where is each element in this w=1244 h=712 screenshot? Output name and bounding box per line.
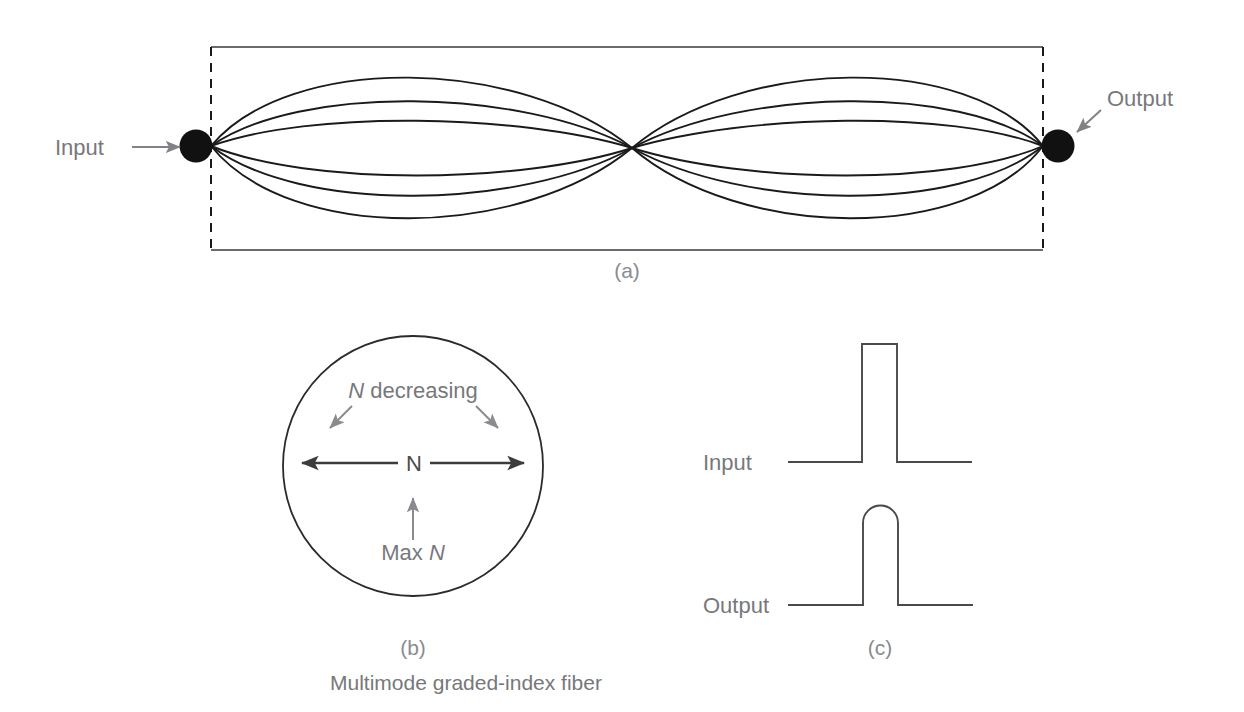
- output-arrow-icon: [1077, 110, 1101, 132]
- panel-c-output-label: Output: [703, 593, 769, 618]
- panel-b-group: N decreasing N Max N (b): [283, 336, 543, 659]
- n-decreasing-italic-n: N: [348, 378, 364, 403]
- ray-path: [211, 78, 632, 148]
- panel-a-output-label: Output: [1107, 86, 1173, 111]
- ray-path: [211, 101, 632, 148]
- down-right-arrow-icon: [476, 406, 498, 428]
- ray-path: [211, 146, 632, 176]
- ray-path: [632, 121, 1043, 148]
- fiber-input-node: [180, 130, 213, 163]
- input-square-pulse-waveform: [788, 344, 972, 462]
- figure-root: Input Output (a) N decreasing N: [0, 0, 1244, 712]
- fiber-output-node: [1042, 130, 1075, 163]
- max-n-italic-n: N: [429, 540, 445, 565]
- multimode-graded-index-fiber-figure: Input Output (a) N decreasing N: [0, 0, 1244, 712]
- ray-path: [632, 101, 1043, 148]
- panel-c-tag: (c): [868, 636, 893, 659]
- n-decreasing-label: N decreasing: [348, 378, 478, 403]
- ray-path: [632, 146, 1043, 218]
- ray-path: [632, 146, 1043, 196]
- panel-a-input-label: Input: [55, 135, 104, 160]
- panel-c-group: Input Output (c): [703, 344, 973, 659]
- max-n-label: Max N: [381, 540, 445, 565]
- output-rounded-pulse-waveform: [788, 506, 973, 606]
- ray-path: [211, 121, 632, 148]
- panel-a-tag: (a): [614, 259, 640, 282]
- ray-path: [632, 146, 1043, 176]
- n-center-label: N: [406, 451, 422, 476]
- panel-b-tag: (b): [400, 636, 426, 659]
- down-left-arrow-icon: [330, 406, 352, 428]
- panel-c-input-label: Input: [703, 450, 752, 475]
- ray-path: [211, 146, 632, 218]
- panel-a-group: Input Output (a): [55, 47, 1173, 282]
- ray-path: [632, 78, 1043, 148]
- figure-caption: Multimode graded-index fiber: [330, 671, 602, 694]
- ray-path: [211, 146, 632, 196]
